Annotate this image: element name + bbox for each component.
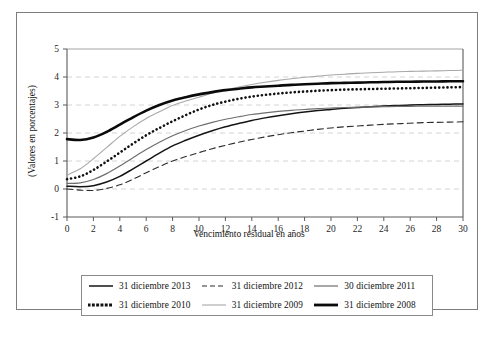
ytick-label-0: 0 — [54, 184, 59, 194]
xtick-label-30: 30 — [458, 224, 468, 234]
ytick-label--1: -1 — [51, 212, 59, 222]
series-line-0 — [67, 104, 463, 187]
legend-label: 31 diciembre 2012 — [232, 281, 303, 291]
legend-item-31-diciembre-2012[interactable]: 31 diciembre 2012 — [201, 281, 314, 291]
legend-label: 31 diciembre 2013 — [119, 281, 190, 291]
line-chart: 024681012141618202224262830 -1012345 Ven… — [17, 13, 477, 309]
xtick-label-8: 8 — [170, 224, 175, 234]
x-axis-title: Vencimiento residual en años — [193, 229, 305, 239]
legend-swatch-dashed-black-icon — [201, 281, 227, 291]
figure-page: 024681012141618202224262830 -1012345 Ven… — [0, 0, 495, 338]
ytick-label-3: 3 — [54, 100, 59, 110]
legend-swatch-solid-black-thin-icon — [88, 281, 114, 291]
ytick-label-1: 1 — [54, 156, 59, 166]
axis-ticks — [63, 49, 463, 221]
xtick-label-22: 22 — [353, 224, 363, 234]
xtick-label-2: 2 — [91, 224, 96, 234]
y-axis-title: (Valores en porcentajes) — [27, 85, 38, 177]
legend-row-1: 31 diciembre 201031 diciembre 200931 dic… — [88, 296, 426, 316]
legend-swatch-solid-lightgray-thin-icon — [201, 300, 227, 310]
figure-frame: 024681012141618202224262830 -1012345 Ven… — [16, 12, 478, 310]
legend-label: 31 diciembre 2008 — [344, 300, 415, 310]
legend-label: 30 diciembre 2011 — [344, 281, 415, 291]
xtick-label-26: 26 — [405, 224, 415, 234]
xtick-label-20: 20 — [326, 224, 336, 234]
legend-label: 31 diciembre 2009 — [232, 300, 303, 310]
legend-item-31-diciembre-2013[interactable]: 31 diciembre 2013 — [88, 281, 201, 291]
ytick-label-4: 4 — [54, 72, 59, 82]
legend-swatch-solid-black-thick-icon — [313, 300, 339, 310]
legend-grid: 31 diciembre 201331 diciembre 201230 dic… — [82, 276, 432, 315]
y-tick-labels: -1012345 — [51, 44, 59, 222]
legend-swatch-dotted-black-thick-icon — [88, 300, 114, 310]
ytick-label-2: 2 — [54, 128, 59, 138]
xtick-label-4: 4 — [117, 224, 122, 234]
legend-label: 31 diciembre 2010 — [119, 300, 190, 310]
legend-item-31-diciembre-2008[interactable]: 31 diciembre 2008 — [313, 300, 426, 310]
xtick-label-28: 28 — [432, 224, 442, 234]
legend-item-30-diciembre-2011[interactable]: 30 diciembre 2011 — [313, 281, 426, 291]
legend-item-31-diciembre-2010[interactable]: 31 diciembre 2010 — [88, 300, 201, 310]
ytick-label-5: 5 — [54, 44, 59, 54]
gridlines — [67, 49, 463, 189]
chart-legend: 31 diciembre 201331 diciembre 201230 dic… — [81, 275, 433, 316]
series-lines — [67, 70, 463, 190]
xtick-label-0: 0 — [65, 224, 70, 234]
legend-row-0: 31 diciembre 201331 diciembre 201230 dic… — [88, 276, 426, 296]
xtick-label-6: 6 — [144, 224, 149, 234]
xtick-label-24: 24 — [379, 224, 389, 234]
legend-swatch-solid-gray-thin-icon — [313, 281, 339, 291]
legend-item-31-diciembre-2009[interactable]: 31 diciembre 2009 — [201, 300, 314, 310]
